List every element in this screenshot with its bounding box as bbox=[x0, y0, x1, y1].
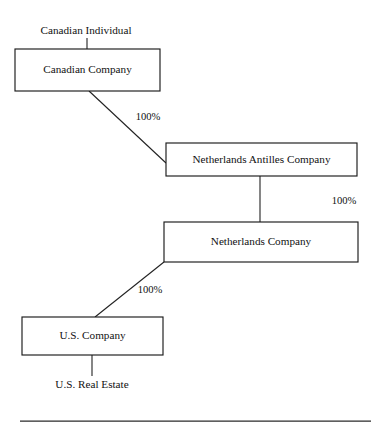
ownership-structure-diagram: Canadian Individual Canadian Company Net… bbox=[0, 0, 381, 430]
ownership-diagram-container: Canadian Individual Canadian Company Net… bbox=[0, 0, 381, 430]
edge-label-antilles-to-netherlands: 100% bbox=[332, 195, 357, 206]
connector-canadian-company-to-antilles bbox=[89, 91, 166, 163]
edge-label-netherlands-to-us-company: 100% bbox=[138, 284, 163, 295]
node-label-netherlands-company: Netherlands Company bbox=[211, 235, 312, 247]
node-label-canadian-individual: Canadian Individual bbox=[40, 24, 131, 36]
node-label-netherlands-antilles-company: Netherlands Antilles Company bbox=[193, 153, 331, 165]
node-label-us-company: U.S. Company bbox=[59, 329, 126, 341]
edge-label-canadian-company-to-antilles: 100% bbox=[136, 111, 161, 122]
node-label-us-real-estate: U.S. Real Estate bbox=[55, 378, 128, 390]
node-label-canadian-company: Canadian Company bbox=[43, 63, 132, 75]
